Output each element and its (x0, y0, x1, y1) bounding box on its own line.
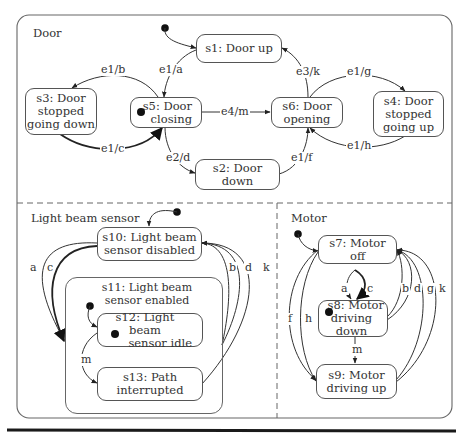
state-s5-label-2: closing (151, 113, 192, 126)
history-dot-s8 (325, 308, 333, 316)
history-dot-s5 (137, 108, 145, 116)
state-s11-label-2: sensor enabled (100, 295, 194, 307)
transition-label-e1-a: e1/a (158, 64, 184, 76)
transition-label-motor-f: f (287, 313, 293, 325)
state-s4-label-3: going up (383, 121, 434, 134)
transition-label-e1-b: e1/b (100, 64, 126, 76)
bottom-rule (7, 430, 456, 431)
transition-label-c: c (46, 262, 54, 274)
transition-label-motor-m: m (351, 344, 363, 356)
state-s2-label: s2: Door down (196, 162, 279, 188)
state-s9-motor-driving-up[interactable]: s9: Motor driving up (316, 364, 397, 399)
state-s7-label-1: s7: Motor (329, 237, 386, 250)
region-label-light-beam-sensor: Light beam sensor (31, 211, 139, 225)
state-s13-label-2: interrupted (116, 384, 183, 397)
transition-label-b: b (228, 262, 237, 274)
transition-label-d: d (244, 262, 253, 274)
state-s3-label-3: going down (27, 118, 95, 131)
state-s5-label-1: s5: Door (143, 100, 192, 113)
transition-label-e1-h: e1/h (346, 140, 372, 152)
state-s9-label-1: s9: Motor (328, 369, 385, 382)
state-s7-label-2: off (350, 250, 365, 263)
transition-label-e3-k: e3/k (295, 66, 321, 78)
region-label-door: Door (33, 26, 62, 40)
state-s13-path-interrupted[interactable]: s13: Path interrupted (97, 367, 203, 401)
state-s2-door-down[interactable]: s2: Door down (195, 159, 280, 190)
transition-label-e1-g: e1/g (346, 66, 372, 78)
transition-label-a: a (29, 262, 38, 274)
state-s6-door-opening[interactable]: s6: Door opening (271, 97, 343, 128)
state-s6-label-1: s6: Door (282, 100, 331, 113)
transition-label-e1-c: e1/c (100, 143, 125, 155)
state-s4-door-stopped-going-up[interactable]: s4: Door stopped going up (373, 91, 444, 137)
state-s10-light-beam-sensor-disabled[interactable]: s10: Light beam sensor disabled (97, 227, 202, 261)
state-s9-label-2: driving up (327, 382, 387, 395)
history-dot-s12 (111, 330, 119, 338)
state-s10-label-2: sensor disabled (104, 244, 195, 257)
region-label-motor: Motor (291, 211, 327, 225)
state-s3-door-stopped-going-down[interactable]: s3: Door stopped going down (25, 88, 97, 135)
state-s11-label-1: s11: Light beam (100, 282, 194, 294)
state-s4-label-1: s4: Door (384, 95, 433, 108)
state-s1-door-up[interactable]: s1: Door up (196, 34, 282, 63)
transition-label-motor-g: g (426, 283, 435, 295)
transition-label-motor-h: h (304, 313, 313, 325)
transition-label-motor-k: k (438, 283, 447, 295)
state-s8-motor-driving-down[interactable]: s8: Motor driving down (318, 300, 388, 337)
transition-label-e2-d: e2/d (165, 152, 191, 164)
state-s1-label: s1: Door up (205, 42, 273, 55)
transition-label-motor-b: b (401, 283, 410, 295)
transition-label-e1-f: e1/f (290, 152, 313, 164)
transition-label-motor-a: a (340, 283, 349, 295)
transition-label-m: m (80, 354, 92, 366)
state-s4-label-2: stopped (385, 108, 431, 121)
state-s6-label-2: opening (284, 113, 331, 126)
transition-label-motor-c: c (366, 283, 374, 295)
state-s7-motor-off[interactable]: s7: Motor off (318, 235, 397, 264)
state-s12-label-2: sensor idle (128, 337, 192, 350)
transition-label-e4-m: e4/m (220, 106, 250, 118)
transition-label-motor-d: d (413, 283, 422, 295)
transition-label-k: k (262, 262, 271, 274)
